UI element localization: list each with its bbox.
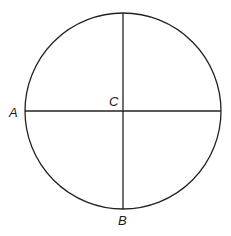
circle-diagram: A C B	[0, 0, 231, 236]
label-b: B	[118, 213, 127, 228]
label-a: A	[8, 105, 18, 120]
label-c: C	[109, 94, 119, 109]
